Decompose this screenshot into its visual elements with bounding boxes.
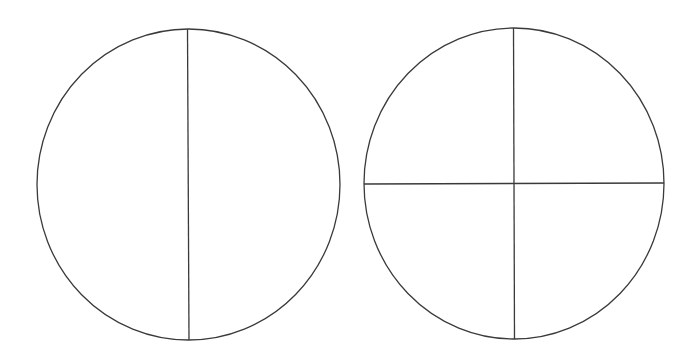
halves-circle [37, 29, 340, 340]
fraction-circles-diagram [0, 0, 699, 362]
quarters-circle [364, 28, 664, 339]
vertical-divider-line [188, 29, 190, 340]
horizontal-divider-line [364, 183, 664, 184]
diagram-canvas [0, 0, 699, 362]
